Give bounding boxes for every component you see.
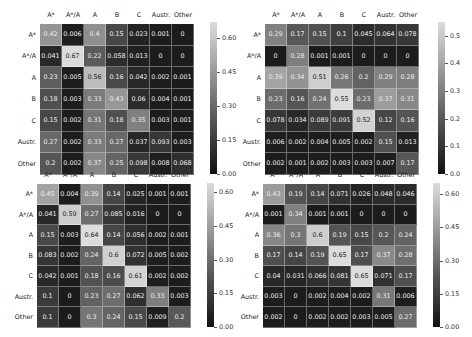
row-headers: A*A*/AABCAustr.Other	[229, 184, 259, 328]
heatmap-cell: 0	[59, 307, 81, 328]
heatmap-cell: 0.071	[373, 266, 395, 287]
heatmap-cell: 0.002	[353, 132, 375, 154]
heatmap-cell: 0.55	[331, 89, 353, 111]
heatmap-cell: 0.14	[103, 184, 125, 205]
heatmap-cell: 0.002	[287, 132, 309, 154]
column-label: A*/A	[285, 171, 307, 179]
heatmap-cell: 0.23	[40, 67, 62, 89]
heatmap-cell: 0.35	[128, 110, 150, 132]
heatmap-cell: 0.15	[351, 225, 373, 246]
heatmap-cell: 0.064	[375, 24, 397, 46]
heatmap-cell: 0.17	[351, 246, 373, 267]
heatmap-cell: 0.27	[106, 132, 128, 154]
row-label: Austr.	[231, 132, 261, 154]
heatmap-cell: 0.19	[307, 246, 329, 267]
heatmap-cell: 0.16	[106, 67, 128, 89]
heatmap-cell: 0.31	[397, 89, 419, 111]
heatmap-cell: 0.085	[103, 205, 125, 226]
heatmap-cell: 0.24	[103, 307, 125, 328]
heatmap-cell: 0.004	[329, 287, 351, 308]
row-headers: A*A*/AABCAustr.Other	[231, 24, 261, 175]
heatmap-cell: 0.072	[125, 246, 147, 267]
heatmap-cell: 0.003	[169, 287, 191, 308]
heatmap-cell: 0.17	[263, 246, 285, 267]
row-label: A*/A	[231, 46, 261, 68]
heatmap-cell: 0	[150, 46, 172, 68]
heatmap-cell: 0.27	[103, 287, 125, 308]
heatmap-cell: 0.005	[373, 307, 395, 328]
heatmap-cell: 0.23	[353, 89, 375, 111]
heatmap-cell: 0.22	[84, 46, 106, 68]
row-label: B	[231, 89, 261, 111]
heatmap-cell: 0.64	[81, 225, 103, 246]
heatmap-cell: 0.17	[395, 266, 417, 287]
heatmap-cell: 0.27	[395, 307, 417, 328]
heatmap-cell: 0.39	[265, 67, 287, 89]
heatmap-cell: 0.15	[125, 307, 147, 328]
column-label: Other	[395, 171, 417, 179]
heatmap-cell: 0.001	[309, 46, 331, 68]
heatmap-cell: 0.062	[125, 287, 147, 308]
heatmap-cell: 0.002	[169, 246, 191, 267]
heatmap-cell: 0.16	[103, 266, 125, 287]
heatmap-cell: 0.091	[331, 110, 353, 132]
row-label: A*/A	[229, 205, 259, 226]
heatmap-cell: 0.009	[147, 307, 169, 328]
column-label: A*	[263, 171, 285, 179]
heatmap-cell: 0.14	[285, 246, 307, 267]
heatmap-cell: 0.001	[263, 205, 285, 226]
row-label: Austr.	[229, 287, 259, 308]
heatmap-cell: 0.2	[169, 307, 191, 328]
row-label: C	[3, 266, 33, 287]
heatmap-cell: 0.15	[106, 24, 128, 46]
colorbar-tick-label: 0.2	[450, 115, 460, 123]
heatmap-cell: 0.61	[125, 266, 147, 287]
column-headers: A*A*/AABCAustr.Other	[37, 171, 191, 179]
heatmap-cell: 0.39	[81, 184, 103, 205]
colorbar	[433, 183, 440, 327]
colorbar	[438, 22, 445, 174]
heatmap-cell: 0.031	[285, 266, 307, 287]
heatmap-cell: 0.56	[84, 67, 106, 89]
heatmap-cell: 0.013	[128, 46, 150, 68]
heatmap-cell: 0.003	[351, 307, 373, 328]
heatmap-cell: 0.042	[128, 67, 150, 89]
heatmap-cell: 0	[172, 24, 194, 46]
heatmap-cell: 0	[375, 46, 397, 68]
heatmap-grid: 0.420.0060.40.150.0230.00100.0410.670.22…	[40, 24, 194, 175]
heatmap-cell: 0.1	[331, 24, 353, 46]
column-label: B	[331, 11, 353, 19]
heatmap-cell: 0.2	[353, 67, 375, 89]
heatmap-cell: 0.17	[287, 24, 309, 46]
heatmap-cell: 0.001	[169, 184, 191, 205]
heatmap-cell: 0.005	[62, 67, 84, 89]
column-label: C	[353, 11, 375, 19]
heatmap-cell: 0.003	[263, 287, 285, 308]
heatmap-cell: 0.002	[307, 307, 329, 328]
heatmap-cell: 0.36	[263, 225, 285, 246]
heatmap-cell: 0.002	[150, 67, 172, 89]
column-label: A*/A	[62, 11, 84, 19]
heatmap-cell: 0.002	[351, 287, 373, 308]
heatmap-cell: 0.023	[128, 24, 150, 46]
heatmap-cell: 0.056	[125, 225, 147, 246]
heatmap-cell: 0.001	[329, 205, 351, 226]
heatmap-cell: 0.3	[81, 307, 103, 328]
row-label: Other	[229, 307, 259, 328]
column-headers: A*A*/AABCAustr.Other	[263, 171, 417, 179]
heatmap-cell: 0.006	[395, 287, 417, 308]
heatmap-cell: 0.31	[373, 287, 395, 308]
heatmap-cell: 0.004	[309, 132, 331, 154]
heatmap-cell: 0.046	[395, 184, 417, 205]
heatmap-cell: 0.001	[147, 184, 169, 205]
heatmap-cell: 0.15	[37, 225, 59, 246]
row-label: Austr.	[3, 287, 33, 308]
column-headers: A*A*/AABCAustr.Other	[265, 11, 419, 19]
heatmap-cell: 0.33	[84, 132, 106, 154]
heatmap-cell: 0.002	[307, 287, 329, 308]
heatmap-cell: 0.002	[263, 307, 285, 328]
heatmap-cell: 0.025	[125, 184, 147, 205]
heatmap-cell: 0.37	[375, 89, 397, 111]
heatmap-cell: 0.002	[329, 307, 351, 328]
heatmap-cell: 0.19	[285, 184, 307, 205]
